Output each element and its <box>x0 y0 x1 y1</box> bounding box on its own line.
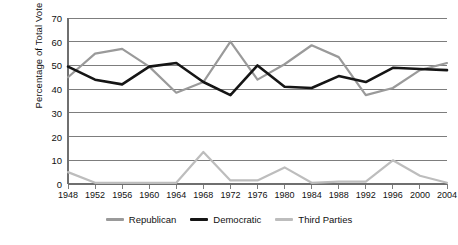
x-axis-tick-label: 1952 <box>85 190 105 200</box>
y-axis-tick-label: 0 <box>34 179 62 190</box>
plot-area <box>68 18 447 184</box>
legend-swatch-icon <box>275 218 293 221</box>
chart-svg <box>68 18 447 184</box>
x-axis-tick-label: 1996 <box>383 190 403 200</box>
chart-legend: RepublicanDemocraticThird Parties <box>0 214 458 225</box>
x-axis-tick-label: 1956 <box>112 190 132 200</box>
legend-item-republican[interactable]: Republican <box>106 214 177 225</box>
x-axis-tick-label: 1976 <box>247 190 267 200</box>
x-axis-tick-label: 1984 <box>302 190 322 200</box>
legend-label: Third Parties <box>298 214 352 225</box>
legend-label: Republican <box>129 214 177 225</box>
legend-item-third-parties[interactable]: Third Parties <box>275 214 352 225</box>
x-axis-tick-label: 1964 <box>166 190 186 200</box>
y-axis-tick-label: 10 <box>34 155 62 166</box>
legend-swatch-icon <box>106 218 124 221</box>
x-axis-tick-labels: 1948195219561960196419681972197619801984… <box>68 190 447 204</box>
x-axis-tick-label: 1960 <box>139 190 159 200</box>
x-axis-tick-label: 1948 <box>58 190 78 200</box>
x-axis-tick-label: 1980 <box>275 190 295 200</box>
legend-swatch-icon <box>190 218 208 221</box>
x-axis-tick-label: 1988 <box>329 190 349 200</box>
x-axis-tick-label: 1968 <box>193 190 213 200</box>
x-axis-tick-label: 1972 <box>220 190 240 200</box>
y-axis-title: Percentage of Total Vote <box>33 0 44 136</box>
series-line-third-parties <box>68 152 447 183</box>
legend-item-democratic[interactable]: Democratic <box>190 214 261 225</box>
x-axis-tick-label: 1992 <box>356 190 376 200</box>
chart-container: Percentage of Total Vote 010203040506070… <box>0 0 458 245</box>
x-axis-tick-label: 2004 <box>437 190 457 200</box>
legend-label: Democratic <box>213 214 261 225</box>
x-axis-tick-label: 2000 <box>410 190 430 200</box>
